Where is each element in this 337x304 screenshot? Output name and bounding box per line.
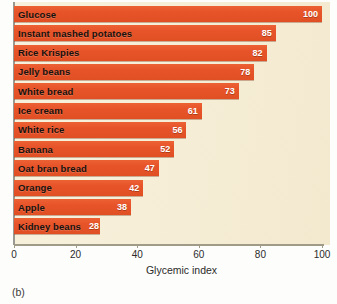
bar-category-label: Instant mashed potatoes — [18, 28, 132, 39]
bar-value-label: 61 — [188, 106, 198, 116]
x-tick-mark — [322, 245, 323, 248]
bar-category-label: Jelly beans — [18, 66, 70, 77]
bar-category-label: Rice Krispies — [18, 47, 80, 58]
bar-value-label: 52 — [160, 144, 170, 154]
bar: Jelly beans78 — [14, 64, 254, 80]
x-tick-label: 0 — [11, 249, 17, 260]
bar-value-label: 56 — [172, 125, 182, 135]
x-tick-label: 20 — [70, 249, 81, 260]
figure-caption: (b) — [12, 286, 25, 298]
bar-value-label: 28 — [89, 221, 99, 231]
bar-row: White rice56 — [14, 122, 186, 138]
bar-category-label: Kidney beans — [18, 221, 81, 232]
bar: White bread73 — [14, 83, 239, 99]
bar-row: Orange42 — [14, 180, 143, 196]
bar-category-label: Banana — [18, 144, 53, 155]
bar-category-label: Apple — [18, 202, 45, 213]
bar: White rice56 — [14, 122, 186, 138]
x-tick-label: 60 — [193, 249, 204, 260]
x-tick-label: 80 — [255, 249, 266, 260]
bar: Orange42 — [14, 180, 143, 196]
bar-row: Instant mashed potatoes85 — [14, 25, 276, 41]
bar-row: Apple38 — [14, 199, 131, 215]
bar-value-label: 42 — [129, 183, 139, 193]
bar: Banana52 — [14, 141, 174, 157]
bar: Instant mashed potatoes85 — [14, 25, 276, 41]
bar: Glucose100 — [14, 6, 322, 22]
bar-value-label: 100 — [303, 9, 318, 19]
x-tick-label: 100 — [314, 249, 331, 260]
x-axis-title: Glycemic index — [0, 264, 337, 276]
bar-series: Glucose100Instant mashed potatoes85Rice … — [14, 0, 330, 245]
bar: Oat bran bread47 — [14, 160, 159, 176]
bar-row: Glucose100 — [14, 6, 322, 22]
bar-row: Rice Krispies82 — [14, 45, 267, 61]
x-tick-label: 40 — [132, 249, 143, 260]
bar: Kidney beans28 — [14, 218, 100, 234]
x-tick-mark — [76, 245, 77, 248]
bar-category-label: Ice cream — [18, 105, 63, 116]
bar-value-label: 82 — [253, 48, 263, 58]
bar-category-label: White rice — [18, 124, 64, 135]
bar-category-label: Oat bran bread — [18, 163, 87, 174]
bar-row: Oat bran bread47 — [14, 160, 159, 176]
x-tick-mark — [137, 245, 138, 248]
bar-category-label: Glucose — [18, 9, 56, 20]
x-tick-mark — [260, 245, 261, 248]
bar: Rice Krispies82 — [14, 45, 267, 61]
bar-row: Banana52 — [14, 141, 174, 157]
bar-row: White bread73 — [14, 83, 239, 99]
glycemic-index-figure: Glucose100Instant mashed potatoes85Rice … — [0, 0, 337, 304]
x-tick-mark — [14, 245, 15, 248]
bar-row: Jelly beans78 — [14, 64, 254, 80]
bar: Ice cream61 — [14, 103, 202, 119]
bar-value-label: 47 — [145, 163, 155, 173]
bar: Apple38 — [14, 199, 131, 215]
bar-value-label: 38 — [117, 202, 127, 212]
bar-category-label: White bread — [18, 86, 73, 97]
bar-row: Kidney beans28 — [14, 218, 100, 234]
bar-category-label: Orange — [18, 182, 52, 193]
x-tick-mark — [199, 245, 200, 248]
bar-row: Ice cream61 — [14, 103, 202, 119]
bar-value-label: 73 — [225, 86, 235, 96]
bar-value-label: 85 — [262, 28, 272, 38]
bar-value-label: 78 — [240, 67, 250, 77]
